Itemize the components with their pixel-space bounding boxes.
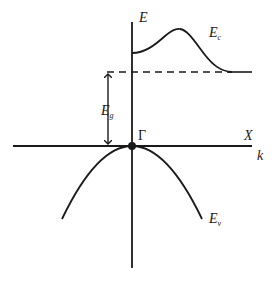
band-gap-label: Eg	[100, 103, 114, 120]
gamma-point-dot	[128, 142, 136, 150]
x-point-label: X	[243, 128, 253, 143]
energy-axis-label: E	[138, 10, 148, 25]
gamma-point-label: Γ	[138, 128, 146, 143]
band-structure-diagram: E Ec Eg Γ X k Ev	[0, 0, 273, 282]
conduction-band-label: Ec	[208, 25, 222, 42]
k-axis-label: k	[257, 148, 264, 163]
valence-band-label: Ev	[208, 211, 222, 228]
